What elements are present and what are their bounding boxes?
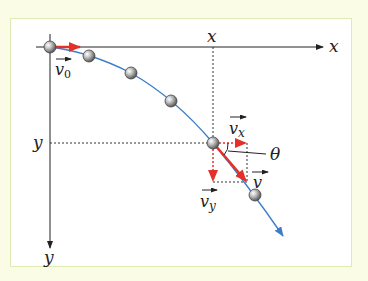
guide-lines [50, 47, 247, 182]
v0-label: v0 [55, 59, 71, 81]
svg-text:v: v [253, 173, 262, 192]
v-label: v [252, 172, 268, 192]
y-marker-label: y [32, 132, 43, 152]
ball [125, 67, 137, 79]
vx-label: vx [229, 117, 246, 140]
trajectory-curve [50, 47, 283, 236]
angle-arc [224, 143, 228, 155]
x-marker-label: x [207, 26, 217, 46]
vy-label: vy [200, 190, 217, 213]
ball [44, 41, 56, 53]
x-axis-label: x [329, 36, 339, 56]
y-axis-label: y [43, 247, 54, 267]
svg-text:v0: v0 [55, 60, 71, 81]
svg-text:vx: vx [229, 119, 245, 140]
velocity-vectors [52, 47, 246, 181]
v-vector [215, 145, 246, 181]
ball [165, 95, 177, 107]
axes: x y [36, 34, 339, 267]
svg-text:vy: vy [200, 192, 216, 213]
ball [83, 50, 95, 62]
angle-label: θ [270, 144, 280, 164]
ball [207, 137, 219, 149]
projectile-diagram: x y x y θ v0 vx vy [0, 0, 368, 281]
